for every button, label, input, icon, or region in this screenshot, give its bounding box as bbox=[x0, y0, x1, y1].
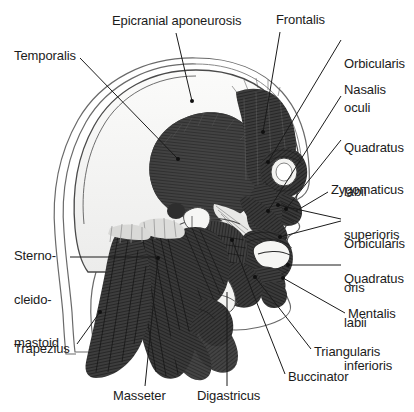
label-temporalis: Temporalis bbox=[14, 49, 76, 64]
label-triangularis: Triangularis bbox=[314, 345, 380, 360]
label-epicranial-aponeurosis: Epicranial aponeurosis bbox=[112, 14, 241, 29]
anatomy-figure-page: Epicranial aponeurosis Frontalis Orbicul… bbox=[0, 0, 414, 412]
label-quadratus-labii-inferioris: Quadratus labii inferioris bbox=[344, 243, 404, 403]
leader-mentalis bbox=[283, 278, 345, 313]
label-frontalis: Frontalis bbox=[276, 13, 325, 28]
label-sternocleidomastoid-line-2: cleido- bbox=[14, 293, 59, 308]
label-nasalis: Nasalis bbox=[344, 83, 386, 98]
label-zygomaticus: Zygomaticus bbox=[331, 183, 404, 198]
label-buccinator: Buccinator bbox=[288, 370, 348, 385]
label-sternocleidomastoid-line-3: mastoid bbox=[14, 336, 59, 351]
label-orbicularis-oculi-line-1: Orbicularis bbox=[344, 57, 405, 72]
label-quadratus-labii-inferioris-line-3: inferioris bbox=[344, 359, 404, 374]
label-quadratus-labii-superioris-line-1: Quadratus bbox=[344, 141, 404, 156]
label-sternocleidomastoid: Sterno- cleido- mastoid bbox=[14, 220, 59, 380]
label-sternocleidomastoid-line-1: Sterno- bbox=[14, 249, 59, 264]
label-mentalis: Mentalis bbox=[348, 307, 396, 322]
leader-zygomaticus bbox=[296, 192, 328, 211]
label-masseter: Masseter bbox=[113, 389, 166, 404]
label-quadratus-labii-inferioris-line-1: Quadratus bbox=[344, 272, 404, 287]
label-digastricus: Digastricus bbox=[197, 389, 260, 404]
